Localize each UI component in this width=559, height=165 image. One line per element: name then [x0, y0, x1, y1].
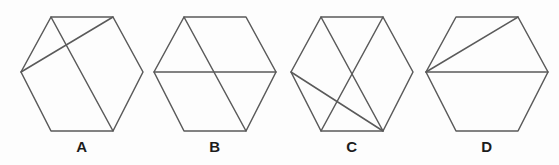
chord-c-3	[291, 72, 383, 131]
hexagon-c	[291, 17, 413, 131]
chord-a-1	[51, 17, 113, 131]
hexagon-outline-d	[426, 17, 548, 131]
hexagon-label-c: C	[346, 139, 357, 154]
hexagon-d	[426, 17, 548, 131]
hexagon-a	[21, 17, 143, 131]
chord-b-2	[184, 17, 246, 131]
chord-d-2	[426, 17, 518, 72]
hexagon-b	[154, 17, 276, 131]
hexagon-figure-set: ABCD	[0, 0, 559, 165]
hexagon-label-a: A	[76, 139, 87, 154]
hexagon-label-d: D	[481, 139, 492, 154]
chord-a-2	[21, 17, 113, 72]
hexagon-label-b: B	[209, 139, 220, 154]
